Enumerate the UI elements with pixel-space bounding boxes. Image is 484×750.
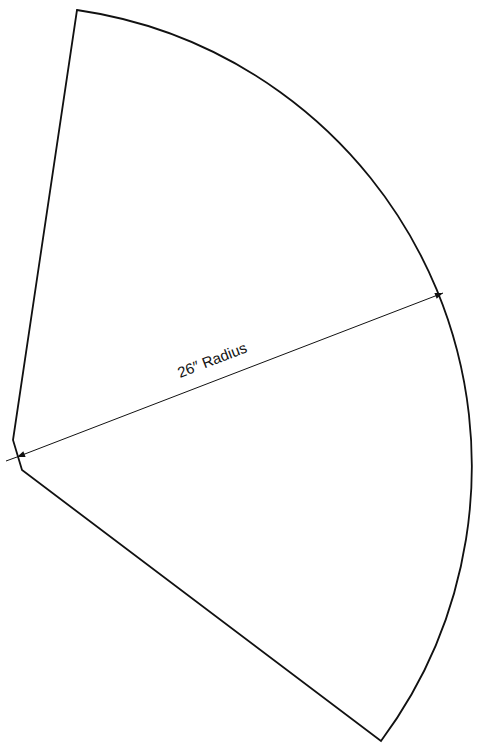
dimension-tick (6, 457, 17, 461)
sector-drawing: 26″ Radius (0, 0, 484, 750)
radius-dimension-line (17, 293, 443, 457)
radius-label: 26″ Radius (175, 339, 249, 381)
sector-outline (13, 10, 472, 741)
